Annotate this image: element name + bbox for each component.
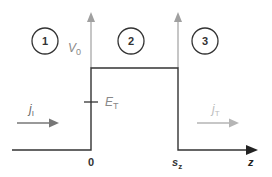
arrow-right-icon [49,119,59,128]
z-axis-arrow-icon [246,145,258,155]
arrow-right-icon [229,119,239,128]
incident-current: jI [17,102,59,128]
potential-barrier-diagram: 1 2 3 V0 ET jI jT 0 sz z [0,0,272,177]
incident-current-label: jI [27,102,34,118]
right-vertical-axis [174,12,182,68]
barrier-height-label: V0 [68,41,81,57]
left-vertical-axis [87,12,95,68]
region-1-marker: 1 [32,28,58,54]
arrow-up-icon [87,12,95,22]
transmitted-current-label: jT [210,102,220,118]
region-2-marker: 2 [118,28,144,54]
tick-sz: sz [172,156,182,171]
region-1-label: 1 [42,35,48,47]
transmitted-current: jT [197,102,239,128]
tick-zero: 0 [88,156,94,168]
energy-label: ET [105,95,119,111]
region-2-label: 2 [128,35,134,47]
arrow-up-icon [174,12,182,22]
z-axis-label: z [247,156,254,168]
region-3-label: 3 [202,35,208,47]
region-3-marker: 3 [192,28,218,54]
